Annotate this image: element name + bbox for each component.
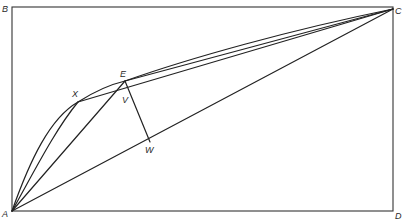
label-b: B xyxy=(2,4,8,14)
label-v: V xyxy=(122,95,129,105)
diagonal-a-c xyxy=(12,9,393,211)
line-a-e xyxy=(12,81,125,211)
label-d: D xyxy=(395,211,402,220)
label-a: A xyxy=(1,209,8,219)
chord-a-x xyxy=(12,102,78,211)
line-e-w xyxy=(125,81,150,142)
line-e-c xyxy=(125,9,393,81)
geometry-diagram: A B C D E X V W xyxy=(0,0,402,220)
label-x: X xyxy=(71,89,79,99)
line-x-c xyxy=(78,9,393,102)
label-c: C xyxy=(395,6,402,16)
label-w: W xyxy=(145,145,155,155)
label-e: E xyxy=(120,69,127,79)
